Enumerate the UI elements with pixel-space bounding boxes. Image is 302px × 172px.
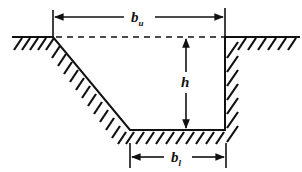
channel-outline xyxy=(12,37,300,130)
wall-hatch-right xyxy=(227,42,238,142)
h-label: h xyxy=(181,74,189,90)
ground-hatch-left xyxy=(14,38,54,50)
bl-label: bl xyxy=(171,149,182,168)
bed-hatch xyxy=(126,132,224,144)
ground-hatch-right xyxy=(238,38,296,50)
bank-hatch-left xyxy=(52,46,126,144)
channel-diagram: bu h bl xyxy=(0,0,302,172)
bu-label: bu xyxy=(131,9,144,28)
